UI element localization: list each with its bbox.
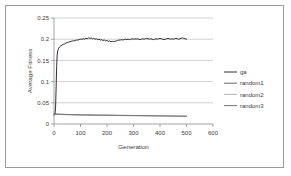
- axes: [54, 18, 213, 124]
- y-tick-label: 0.25: [37, 15, 49, 21]
- y-tick-label: 0: [46, 121, 50, 127]
- chart-legend: garandom1random2random3: [224, 69, 264, 109]
- chart-inner: 00.050.10.150.20.25 0100200300400500600 …: [6, 6, 283, 167]
- y-axis-tick-labels: 00.050.10.150.20.25: [37, 15, 49, 127]
- x-tick-label: 200: [102, 130, 113, 136]
- x-tick-label: 400: [155, 130, 166, 136]
- x-tick-label: 300: [128, 130, 139, 136]
- x-tick-label: 100: [75, 130, 86, 136]
- y-tick-label: 0.1: [41, 79, 50, 85]
- legend-label-random3: random3: [240, 103, 264, 109]
- x-tick-label: 600: [208, 130, 219, 136]
- x-axis-tick-labels: 0100200300400500600: [52, 130, 218, 136]
- axis-ticks: [51, 18, 213, 127]
- series-line-ga: [54, 38, 187, 115]
- legend-label-ga: ga: [240, 69, 247, 75]
- x-tick-label: 500: [181, 130, 192, 136]
- legend-label-random2: random2: [240, 92, 264, 98]
- gridlines: [54, 18, 213, 103]
- y-tick-label: 0.15: [37, 58, 49, 64]
- x-axis-title: Generation: [118, 143, 149, 150]
- line-chart: 00.050.10.150.20.25 0100200300400500600 …: [6, 6, 283, 167]
- y-axis-title: Average Fitness: [26, 49, 33, 94]
- y-tick-label: 0.2: [41, 36, 50, 42]
- x-tick-label: 0: [52, 130, 56, 136]
- chart-container: 00.050.10.150.20.25 0100200300400500600 …: [5, 5, 284, 168]
- legend-label-random1: random1: [240, 80, 264, 86]
- data-series-group: [54, 38, 187, 116]
- y-tick-label: 0.05: [37, 100, 49, 106]
